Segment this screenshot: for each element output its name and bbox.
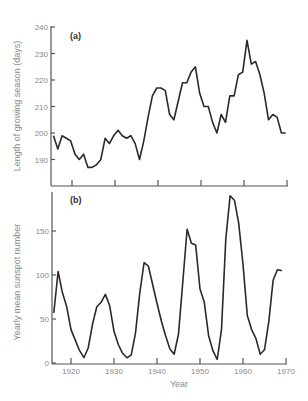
panel-label-a: (a) — [70, 31, 81, 41]
y-ticks-b: 050100150 — [36, 227, 56, 368]
y-ticks-a: 190200210220230240 — [35, 23, 55, 165]
x-tick-label: 1940 — [148, 367, 166, 376]
y-tick-label: 230 — [35, 50, 49, 59]
y-tick-label: 220 — [35, 76, 49, 85]
y-tick-label: 200 — [35, 129, 49, 138]
y-tick-label: 100 — [36, 271, 50, 280]
panel-a: 190200210220230240 (a) Length of growing… — [12, 23, 288, 186]
y-axis-title-b: Yearly mean sunspot number — [12, 224, 22, 341]
y-tick-label: 150 — [36, 227, 50, 236]
y-tick-label: 210 — [35, 103, 49, 112]
x-ticks-b: 192019301940195019601970 — [62, 358, 295, 376]
x-axis-title: Year — [170, 379, 188, 389]
chart-figure: 190200210220230240 (a) Length of growing… — [0, 0, 308, 401]
y-tick-label: 190 — [35, 156, 49, 165]
x-ticks-a — [72, 180, 287, 186]
x-tick-label: 1920 — [62, 367, 80, 376]
x-tick-label: 1930 — [105, 367, 123, 376]
x-tick-label: 1950 — [191, 367, 209, 376]
y-tick-label: 0 — [45, 359, 50, 368]
growing-season-line — [54, 40, 286, 167]
panel-label-b: (b) — [70, 195, 82, 205]
sunspot-line — [54, 196, 282, 360]
y-axis-title-a: Length of growing season (days) — [12, 41, 22, 172]
x-tick-label: 1960 — [234, 367, 252, 376]
x-tick-label: 1970 — [277, 367, 295, 376]
y-tick-label: 50 — [40, 315, 49, 324]
y-tick-label: 240 — [35, 23, 49, 32]
panel-b: 050100150 192019301940195019601970 (b) Y… — [12, 192, 295, 389]
